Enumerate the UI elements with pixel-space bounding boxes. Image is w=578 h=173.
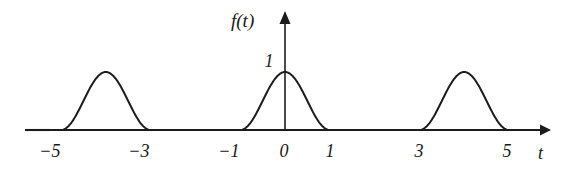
x-tick-label-1: 1 [325,142,334,160]
x-axis-label: t [538,144,543,162]
x-tick-label-3: 3 [414,142,423,160]
figure-canvas: f(t) 1 t −5 −3 −1 0 1 3 5 [0,0,578,173]
pulse-curve-right [419,72,509,130]
x-tick-label-0: 0 [279,142,288,160]
x-axis-arrowhead [540,125,551,136]
x-tick-label-5: 5 [502,142,511,160]
pulse-curve-left [61,72,151,130]
x-tick-label-neg3: −3 [128,142,150,160]
y-axis-arrowhead [280,11,291,24]
y-axis-label: f(t) [231,11,254,30]
x-tick-label-neg5: −5 [39,142,61,160]
x-tick-label-neg1: −1 [218,142,240,160]
y-value-label-1: 1 [265,52,274,70]
plot-svg [0,0,578,173]
